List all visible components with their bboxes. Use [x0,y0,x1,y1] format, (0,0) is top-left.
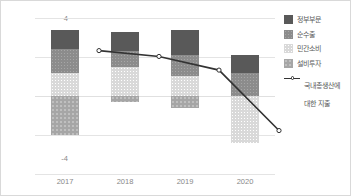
stacked-bar[interactable] [231,55,259,143]
legend-label: 설비투자 [297,59,321,68]
plot-area [35,18,275,174]
gridline-neg4 [35,174,275,175]
bar-segment-government[interactable] [171,30,199,55]
bar-segment-net-exports[interactable] [51,49,79,72]
bar-column-2018 [95,18,155,174]
legend-item-investment[interactable]: 설비투자 [284,59,350,68]
legend-line-marker-icon [284,74,300,83]
chart-legend: 정부부문 순수출 민간소비 설비투자 국내총생산에 대한 지출 [284,15,350,110]
line-marker-2020 [277,128,281,132]
bar-segment-investment[interactable] [171,96,199,108]
bar-segment-consumption[interactable] [171,76,199,96]
bar-segment-net-exports[interactable] [171,55,199,76]
bar-segment-net-exports[interactable] [111,51,139,67]
legend-line-label-2: 대한 지출 [304,100,330,107]
legend-item-government[interactable]: 정부부문 [284,15,350,24]
bar-column-2017 [35,18,95,174]
chart-container: 4 2 0 -2 -4 [0,0,351,196]
bar-column-2020 [215,18,275,174]
bar-segment-government[interactable] [231,55,259,73]
stacked-bar[interactable] [111,32,139,102]
bar-segment-consumption[interactable] [111,67,139,96]
legend-item-gdp-expenditure[interactable]: 국내총생산에 대한 지출 [284,74,350,110]
x-tick-label-2018: 2018 [95,177,155,186]
legend-item-consumption[interactable]: 민간소비 [284,44,350,53]
bar-group [35,18,275,174]
bar-segment-net-exports[interactable] [231,73,259,96]
bar-segment-consumption[interactable] [231,96,259,143]
legend-swatch-icon [284,30,293,39]
legend-swatch-icon [284,15,293,24]
legend-label: 순수출 [297,30,315,39]
x-tick-label-2017: 2017 [35,177,95,186]
legend-label: 민간소비 [297,44,321,53]
bar-segment-investment[interactable] [111,96,139,102]
legend-item-net-exports[interactable]: 순수출 [284,30,350,39]
x-tick-label-2020: 2020 [215,177,275,186]
stacked-bar[interactable] [171,30,199,108]
legend-line-label-1: 국내총생산에 [304,82,340,89]
bar-segment-investment[interactable] [51,96,79,135]
x-tick-label-2019: 2019 [155,177,215,186]
legend-swatch-icon [284,44,293,53]
x-axis-labels: 2017 2018 2019 2020 [35,177,275,191]
bar-column-2019 [155,18,215,174]
legend-swatch-icon [284,59,293,68]
bar-segment-government[interactable] [111,32,139,52]
legend-label: 정부부문 [297,15,321,24]
legend-line-label-wrap: 국내총생산에 대한 지출 [304,74,340,110]
bar-segment-government[interactable] [51,30,79,50]
bar-segment-consumption[interactable] [51,73,79,96]
stacked-bar[interactable] [51,30,79,135]
